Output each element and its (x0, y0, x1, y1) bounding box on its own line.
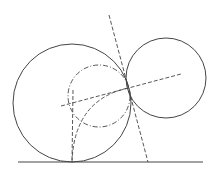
center-line (61, 74, 181, 106)
vertical-line (72, 90, 73, 162)
tangent-line (109, 15, 148, 162)
geometry-diagram (0, 0, 220, 180)
quarter-arc (72, 88, 128, 162)
